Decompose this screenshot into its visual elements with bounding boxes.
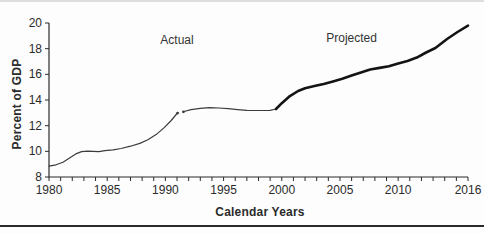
y-tick-label: 14 xyxy=(29,93,43,107)
y-tick-label: 12 xyxy=(29,119,43,133)
series-actual-segment-2 xyxy=(184,108,276,112)
chart-figure: 1980198519901995200020052010201681012141… xyxy=(0,0,484,234)
x-tick-label: 1995 xyxy=(210,183,237,197)
x-tick-label: 2016 xyxy=(455,183,482,197)
bottom-divider xyxy=(0,225,484,227)
line-break-marker xyxy=(176,112,179,115)
x-tick-label: 1980 xyxy=(36,183,63,197)
y-tick-label: 20 xyxy=(29,16,43,30)
x-tick-label: 2010 xyxy=(385,183,412,197)
line-break-marker xyxy=(182,110,185,113)
series-actual-segment-1 xyxy=(49,114,177,167)
x-tick-label: 1985 xyxy=(94,183,121,197)
x-tick-label: 2000 xyxy=(268,183,295,197)
chart-svg: 1980198519901995200020052010201681012141… xyxy=(0,0,484,234)
x-tick-label: 1990 xyxy=(152,183,179,197)
annotation-actual: Actual xyxy=(160,33,193,47)
y-tick-label: 18 xyxy=(29,42,43,56)
x-tick-label: 2005 xyxy=(327,183,354,197)
y-tick-label: 16 xyxy=(29,67,43,81)
annotation-projected: Projected xyxy=(326,31,377,45)
axes xyxy=(49,23,468,177)
x-axis-title: Calendar Years xyxy=(190,205,330,219)
y-tick-label: 8 xyxy=(35,170,42,184)
y-tick-label: 10 xyxy=(29,144,43,158)
y-axis-title: Percent of GDP xyxy=(10,34,24,174)
